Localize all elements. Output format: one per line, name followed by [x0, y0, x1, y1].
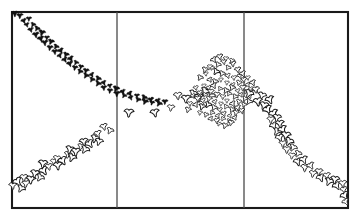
- plot-background: [0, 0, 359, 221]
- figure-root: [0, 0, 359, 221]
- scatter-plot-svg: [0, 0, 359, 221]
